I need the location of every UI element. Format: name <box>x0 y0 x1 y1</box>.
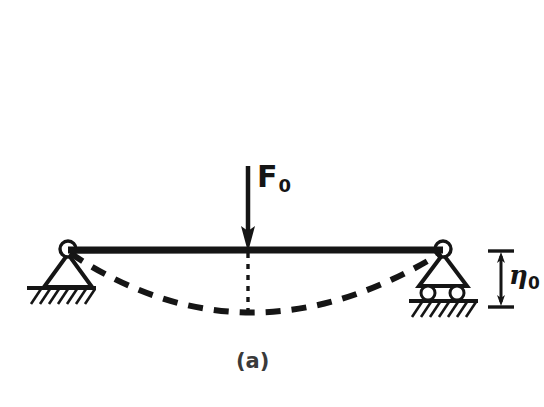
figure-container: F0 η0 (a) <box>0 0 544 407</box>
deflection-label-symbol: η <box>509 260 528 290</box>
right-roller-circle-right <box>450 286 464 300</box>
deflection-label: η0 <box>509 262 540 292</box>
right-ground-hatching <box>412 302 476 317</box>
left-support-triangle <box>44 254 92 287</box>
figure-caption: (a) <box>236 351 269 372</box>
force-label-symbol: F <box>257 159 278 194</box>
deflection-label-subscript: 0 <box>528 273 540 293</box>
beam-body <box>72 248 440 254</box>
force-label-subscript: 0 <box>279 175 292 196</box>
deflected-beam-dashed-curve <box>70 253 441 313</box>
beam-deflection-diagram <box>0 0 544 407</box>
applied-force-arrow <box>241 166 255 252</box>
force-label: F0 <box>257 162 291 195</box>
right-roller-circle-left <box>421 286 435 300</box>
left-ground-hatching <box>31 289 95 304</box>
right-support-triangle <box>419 254 467 286</box>
